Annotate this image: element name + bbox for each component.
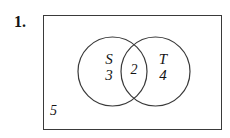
problem-number: 1. — [14, 13, 26, 31]
set-t-only-count: 4 — [146, 67, 180, 83]
outside-count: 5 — [50, 104, 70, 118]
set-t-label-group: T 4 — [146, 52, 180, 83]
set-s-name: S — [92, 52, 126, 67]
intersection-count: 2 — [122, 63, 146, 77]
set-s-label-group: S 3 — [92, 52, 126, 83]
set-t-name: T — [146, 52, 180, 67]
set-s-only-count: 3 — [92, 67, 126, 83]
venn-diagram-figure: 1. S 3 T 4 2 5 — [0, 0, 230, 138]
